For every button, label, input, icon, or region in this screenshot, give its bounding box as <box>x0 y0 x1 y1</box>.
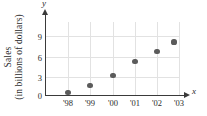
y-tick-6: 6 <box>20 54 42 62</box>
y-axis-letter: y <box>42 0 46 8</box>
gridline-x-98 <box>68 22 69 95</box>
x-axis-letter: x <box>192 86 196 96</box>
gridline-x-02 <box>157 22 158 95</box>
gridline-x-03 <box>179 22 180 95</box>
y-tick-0: 0 <box>20 92 42 100</box>
scatter-plot-figure: Sales (in billions of dollars) 0 3 6 9 <box>0 0 207 116</box>
data-point-00 <box>110 73 115 78</box>
y-tick-9: 9 <box>20 33 42 41</box>
y-axis-tick-labels: 0 3 6 9 <box>18 0 42 116</box>
y-axis-arrow-icon <box>42 9 48 15</box>
data-point-02 <box>154 49 159 54</box>
y-tick-3: 3 <box>20 74 42 82</box>
data-point-03 <box>171 39 176 44</box>
x-axis-line <box>45 95 185 96</box>
data-point-99 <box>87 83 92 88</box>
x-axis-arrow-icon <box>184 92 190 98</box>
x-tick-03: '03 <box>166 99 192 108</box>
y-axis-line <box>45 14 46 95</box>
data-point-01 <box>132 59 137 64</box>
gridline-x-00 <box>113 22 114 95</box>
y-axis-title-line1: Sales <box>3 9 14 105</box>
plot-area <box>45 22 180 95</box>
